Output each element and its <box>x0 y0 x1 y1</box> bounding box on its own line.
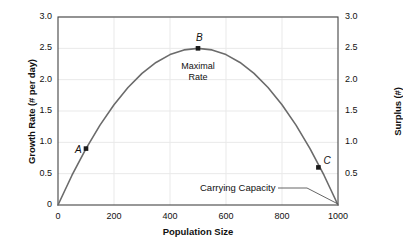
y-axis-right-tick-2.0: 2.0 <box>345 74 375 84</box>
x-axis-tick-600: 600 <box>206 211 246 221</box>
point-label-a: A <box>75 144 82 155</box>
carrying-capacity-annotation: Carrying Capacity <box>200 182 276 193</box>
y-axis-left-tick-0.5: 0.5 <box>22 168 52 178</box>
carrying-capacity-leader-line <box>278 188 338 204</box>
y-axis-left-tick-2.0: 2.0 <box>22 74 52 84</box>
maximal-rate-line2: Rate <box>158 72 238 83</box>
x-axis-tick-200: 200 <box>94 211 134 221</box>
y-axis-right-tick-3.0: 3.0 <box>345 11 375 21</box>
x-axis-tick-400: 400 <box>150 211 190 221</box>
x-axis-tick-0: 0 <box>38 211 78 221</box>
y-axis-right-tick-1.5: 1.5 <box>345 105 375 115</box>
y-axis-right-tick-1.0: 1.0 <box>345 136 375 146</box>
y-axis-right-title: Surplus (#) <box>392 27 403 197</box>
y-axis-right-tick-2.5: 2.5 <box>345 42 375 52</box>
y-axis-left-tick-1.5: 1.5 <box>22 105 52 115</box>
maximal-rate-annotation: MaximalRate <box>158 61 238 83</box>
x-axis-tick-1000: 1000 <box>318 211 358 221</box>
y-axis-left-tick-3.0: 3.0 <box>22 11 52 21</box>
maximal-rate-line1: Maximal <box>158 61 238 72</box>
point-label-b: B <box>196 32 203 43</box>
point-label-c: C <box>323 155 330 166</box>
gridlines <box>58 17 338 205</box>
x-axis-title: Population Size <box>58 226 338 237</box>
y-axis-left-tick-2.5: 2.5 <box>22 42 52 52</box>
x-axis-tick-800: 800 <box>262 211 302 221</box>
y-axis-left-tick-1.0: 1.0 <box>22 136 52 146</box>
y-axis-right-tick-0.5: 0.5 <box>345 168 375 178</box>
y-axis-left-tick-0: 0 <box>22 199 52 209</box>
